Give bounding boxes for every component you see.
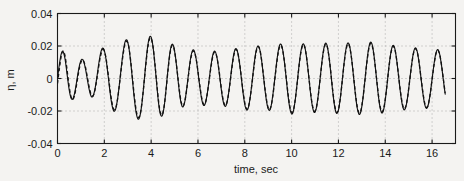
x-tick-label: 8 — [242, 147, 248, 159]
y-tick-label: 0 — [46, 73, 52, 85]
x-tick-label: 16 — [426, 147, 438, 159]
y-tick-label: -0.02 — [27, 105, 52, 117]
y-tick-label: 0.04 — [31, 8, 52, 20]
x-tick-label: 14 — [379, 147, 391, 159]
chart-canvas: 0246810121416 -0.04-0.0200.020.04 time, … — [0, 0, 464, 181]
x-tick-label: 6 — [195, 147, 201, 159]
x-tick-label: 2 — [101, 147, 107, 159]
x-tick-label: 12 — [332, 147, 344, 159]
y-axis-title: η, m — [4, 69, 16, 90]
x-axis-title: time, sec — [234, 163, 279, 175]
y-tick-label: -0.04 — [27, 138, 52, 150]
wave-elevation-figure: 0246810121416 -0.04-0.0200.020.04 time, … — [0, 0, 464, 181]
x-tick-label: 4 — [148, 147, 154, 159]
x-tick-label: 0 — [54, 147, 60, 159]
x-tick-label: 10 — [285, 147, 297, 159]
y-tick-label: 0.02 — [31, 40, 52, 52]
